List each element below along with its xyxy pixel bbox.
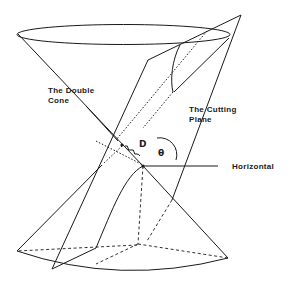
cutting-plane-label-line2: Plane — [189, 115, 212, 124]
distance-label: D — [139, 139, 146, 149]
lower-right-dashed — [138, 244, 228, 258]
double-cone-label-line2: Cone — [48, 96, 69, 105]
upper-cone-hidden-edge-2 — [143, 92, 173, 128]
foot-point — [120, 143, 123, 146]
lower-cone-right-edge — [143, 166, 228, 258]
conic-section-diagram: The Double Cone The Cutting Plane Horizo… — [0, 0, 296, 301]
lower-cone-base-front — [17, 251, 228, 270]
lower-plane-dashed — [147, 200, 172, 241]
distance-dotted-line — [96, 141, 143, 165]
horizontal-label: Horizontal — [232, 162, 274, 171]
upper-cone-left-edge — [18, 34, 143, 166]
angle-label: θ — [158, 148, 164, 158]
double-cone-label-line1: The Double — [48, 86, 95, 95]
lower-left-dashed — [17, 245, 137, 251]
lower-cone-left-edge — [17, 165, 102, 251]
cutting-plane-label-line1: The Cutting — [189, 105, 237, 114]
lower-hyperbola-branch — [96, 166, 143, 248]
lower-axis-dashed — [138, 166, 143, 244]
plane-inner-dotted-line — [103, 146, 122, 164]
upper-hyperbola-branch — [172, 45, 180, 92]
double-cone-pointer — [86, 106, 118, 141]
upper-cone-right-edge — [174, 38, 229, 92]
